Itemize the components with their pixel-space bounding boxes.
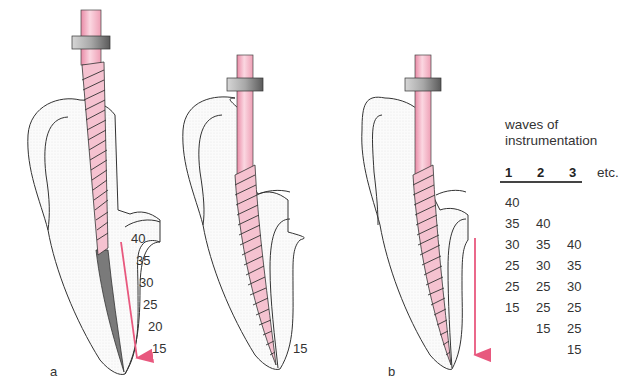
- table-cell: 40: [567, 237, 581, 252]
- table-cell: 30: [536, 258, 550, 273]
- tooth-a: [28, 10, 160, 374]
- table-cell: 25: [505, 258, 519, 273]
- column-header-2: 2: [537, 165, 544, 180]
- table-cell: 15: [567, 342, 581, 357]
- table-cell: 30: [505, 237, 519, 252]
- table-cell: 25: [536, 300, 550, 315]
- table-cell: 25: [567, 300, 581, 315]
- title-line-2: instrumentation: [505, 133, 597, 149]
- size-label: 15: [152, 342, 166, 355]
- etc-label: etc.: [597, 165, 619, 180]
- table-cell: 15: [505, 300, 519, 315]
- panel-label-a: a: [50, 364, 57, 379]
- size-label: 20: [148, 320, 162, 333]
- tooth-middle: [183, 55, 304, 369]
- column-header-1: 1: [505, 165, 512, 180]
- table-cell: 35: [505, 216, 519, 231]
- title-line-1: waves of: [505, 117, 597, 133]
- table-title: waves of instrumentation: [505, 117, 597, 149]
- table-cell: 25: [505, 279, 519, 294]
- size-label: 35: [136, 254, 150, 267]
- panel-label-b: b: [388, 364, 395, 379]
- size-label: 40: [131, 232, 145, 245]
- table-cell: 30: [567, 279, 581, 294]
- table-cell: 25: [536, 279, 550, 294]
- size-label: 30: [139, 276, 153, 289]
- column-header-3: 3: [569, 165, 576, 180]
- table-cell: 35: [536, 237, 550, 252]
- table-cell: 15: [536, 321, 550, 336]
- apex-size-label: 15: [293, 342, 307, 355]
- table-cell: 35: [567, 258, 581, 273]
- table-cell: 40: [536, 216, 550, 231]
- tooth-b: [362, 55, 475, 369]
- table-cell: 40: [505, 195, 519, 210]
- header-rule: [500, 181, 582, 183]
- table-cell: 25: [567, 321, 581, 336]
- size-label: 25: [143, 298, 157, 311]
